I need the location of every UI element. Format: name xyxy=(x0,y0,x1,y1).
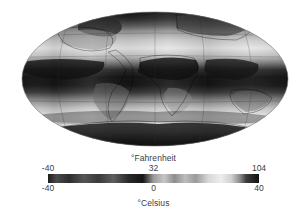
celsius-axis-label: °Celsius xyxy=(0,198,307,208)
celsius-tick-max: 40 xyxy=(254,183,263,194)
fahrenheit-axis-label: °Fahrenheit xyxy=(0,153,307,163)
temperature-colorbar xyxy=(48,174,259,183)
celsius-tick-row: -40 0 40 xyxy=(48,183,259,194)
map-canvas xyxy=(0,0,307,152)
temperature-legend: °Fahrenheit -40 32 104 -40 0 40 °Celsius xyxy=(0,150,307,213)
fahrenheit-tick-max: 104 xyxy=(252,163,266,174)
colorbar-swatch xyxy=(48,174,259,183)
colorbar-canvas xyxy=(48,174,259,183)
fahrenheit-tick-row: -40 32 104 xyxy=(48,163,259,174)
celsius-tick-mid: 0 xyxy=(151,183,156,194)
fahrenheit-tick-mid: 32 xyxy=(149,163,158,174)
global-temperature-map xyxy=(0,0,307,152)
celsius-tick-min: -40 xyxy=(42,183,54,194)
fahrenheit-tick-min: -40 xyxy=(42,163,54,174)
